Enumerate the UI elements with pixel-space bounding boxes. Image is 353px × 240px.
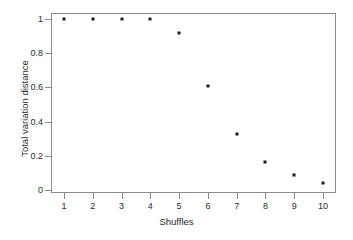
data-point — [322, 182, 325, 185]
y-axis-title: Total variation distance — [19, 39, 30, 179]
scatter-plot-figure: 00.20.40.60.8112345678910 Shuffles Total… — [0, 0, 353, 240]
data-point — [235, 132, 238, 135]
data-point — [178, 31, 181, 34]
data-point — [206, 84, 209, 87]
data-points-layer — [0, 0, 353, 240]
data-point — [91, 17, 94, 20]
x-axis-title: Shuffles — [0, 216, 353, 227]
data-point — [62, 17, 65, 20]
data-point — [120, 17, 123, 20]
data-point — [149, 17, 152, 20]
data-point — [264, 160, 267, 163]
data-point — [293, 174, 296, 177]
